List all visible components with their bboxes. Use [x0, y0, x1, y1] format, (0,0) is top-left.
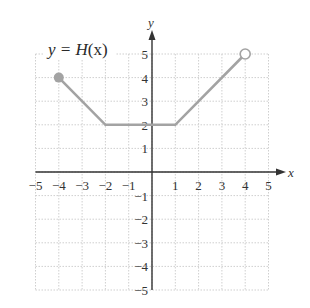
y-axis-arrow-icon: [149, 30, 156, 40]
x-axis-arrow-icon: [276, 169, 286, 176]
y-tick-label: −2: [134, 212, 148, 227]
x-tick-label: −3: [75, 178, 89, 193]
closed-endpoint-dot: [54, 73, 64, 83]
y-tick-label: −1: [134, 189, 148, 204]
x-tick-label: 5: [265, 178, 272, 193]
y-axis-label: y: [146, 15, 154, 30]
x-tick-label: 4: [242, 178, 249, 193]
y-tick-label: 5: [142, 47, 149, 62]
x-tick-label: 2: [195, 178, 202, 193]
x-tick-label: −5: [29, 178, 43, 193]
x-tick-label: −2: [98, 178, 112, 193]
y-tick-label: −5: [134, 283, 148, 298]
y-tick-label: −3: [134, 236, 148, 251]
y-tick-label: −4: [134, 259, 148, 274]
axes: [36, 30, 287, 290]
x-tick-label: −4: [52, 178, 66, 193]
open-endpoint-circle: [240, 49, 250, 59]
y-tick-label: 3: [142, 94, 149, 109]
function-graph: −5−4−3−2−112345−5−4−3−2−112345 y = H(x) …: [0, 0, 310, 308]
y-tick-label: 4: [142, 71, 149, 86]
y-tick-label: 1: [142, 141, 149, 156]
function-label: y = H(x): [46, 40, 108, 59]
x-axis-label: x: [287, 165, 294, 180]
x-tick-label: 1: [172, 178, 179, 193]
x-tick-label: 3: [219, 178, 226, 193]
